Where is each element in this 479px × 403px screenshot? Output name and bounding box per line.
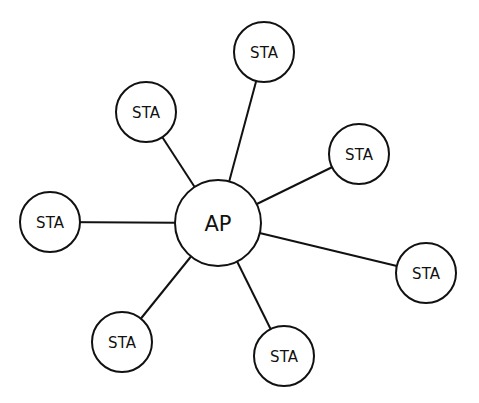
sta-lower-left-node: STA <box>92 312 152 372</box>
sta-label: STA <box>36 214 65 232</box>
sta-left-node: STA <box>20 192 80 252</box>
sta-label: STA <box>345 146 374 164</box>
sta-label: STA <box>108 334 137 352</box>
sta-upper-right-node: STA <box>329 124 389 184</box>
sta-upper-left-node: STA <box>116 82 176 142</box>
sta-label: STA <box>250 44 279 62</box>
sta-top-node: STA <box>234 22 294 82</box>
ap-label: AP <box>204 212 231 236</box>
ap-node: AP <box>175 180 261 266</box>
nodes: APSTASTASTASTASTASTASTA <box>20 22 456 386</box>
sta-label: STA <box>412 265 441 283</box>
star-topology-diagram: APSTASTASTASTASTASTASTA <box>0 0 479 403</box>
sta-label: STA <box>132 104 161 122</box>
sta-lower-right-node: STA <box>254 326 314 386</box>
sta-right-node: STA <box>396 243 456 303</box>
sta-label: STA <box>270 348 299 366</box>
